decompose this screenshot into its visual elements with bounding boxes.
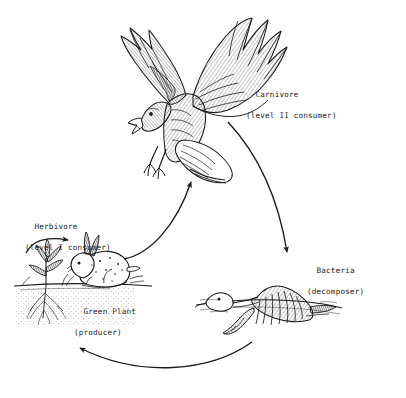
- label-herbivore-line1: Herbivore: [35, 222, 78, 231]
- label-bacteria: Bacteria (decomposer): [307, 255, 364, 308]
- label-carnivore-line2: (level II consumer): [246, 111, 337, 122]
- label-green-plant: Green Plant (producer): [74, 296, 136, 349]
- label-bacteria-line1: Bacteria: [317, 266, 355, 275]
- food-chain-diagram: [0, 0, 406, 398]
- label-herbivore-line2: (level I consumer): [25, 243, 111, 254]
- label-bacteria-line2: (decomposer): [307, 287, 364, 298]
- label-herbivore: Herbivore (level I consumer): [25, 211, 111, 264]
- label-green-plant-line1: Green Plant: [84, 307, 137, 316]
- label-carnivore: Carnivore (level II consumer): [246, 79, 337, 132]
- canvas-background: [0, 0, 406, 398]
- label-green-plant-line2: (producer): [74, 328, 136, 339]
- label-carnivore-line1: Carnivore: [256, 90, 299, 99]
